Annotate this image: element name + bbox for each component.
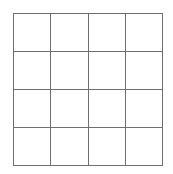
grid-cell[interactable] — [89, 14, 126, 52]
grid-cell[interactable] — [51, 14, 88, 52]
grid-cell[interactable] — [126, 14, 163, 52]
grid-cell[interactable] — [89, 52, 126, 90]
grid-cell[interactable] — [51, 90, 88, 128]
grid-cell[interactable] — [14, 14, 51, 52]
empty-grid[interactable] — [13, 13, 163, 166]
grid-cell[interactable] — [89, 128, 126, 166]
grid-cell[interactable] — [51, 52, 88, 90]
grid-cell[interactable] — [126, 90, 163, 128]
grid-cell[interactable] — [51, 128, 88, 166]
page-canvas — [0, 0, 173, 174]
grid-cell[interactable] — [89, 90, 126, 128]
grid-cell[interactable] — [126, 128, 163, 166]
grid-cell[interactable] — [14, 90, 51, 128]
grid-cell[interactable] — [126, 52, 163, 90]
grid-cell[interactable] — [14, 128, 51, 166]
grid-cell[interactable] — [14, 52, 51, 90]
